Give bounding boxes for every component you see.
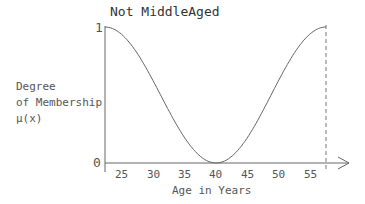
chart-plot — [0, 0, 365, 204]
membership-curve — [105, 27, 326, 163]
